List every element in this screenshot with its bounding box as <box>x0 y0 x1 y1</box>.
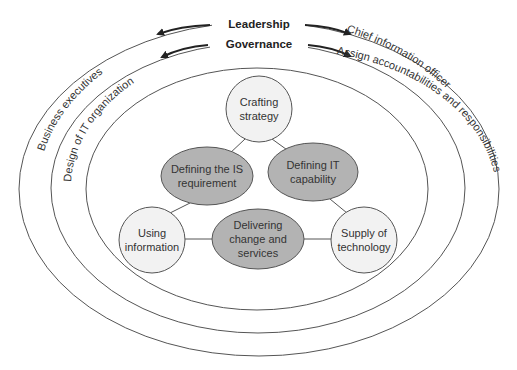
governance-left-arrow-icon <box>162 45 208 57</box>
leadership-left-arrow-icon <box>158 25 210 34</box>
svg-text:Defining the IS: Defining the IS <box>171 163 243 175</box>
node-using-information: Using information <box>119 207 185 273</box>
svg-text:Crafting: Crafting <box>240 96 279 108</box>
svg-text:Defining IT: Defining IT <box>286 159 339 171</box>
node-defining-it-capability: Defining IT capability <box>268 143 358 201</box>
svg-text:information: information <box>125 241 179 253</box>
svg-text:Delivering: Delivering <box>234 219 283 231</box>
svg-text:Supply of: Supply of <box>341 227 388 239</box>
svg-text:strategy: strategy <box>239 110 279 122</box>
svg-text:requirement: requirement <box>178 177 237 189</box>
svg-text:services: services <box>238 247 279 259</box>
is-strategy-diagram: Leadership Governance Business executive… <box>0 0 517 370</box>
node-crafting-strategy: Crafting strategy <box>226 76 292 142</box>
node-delivering-change-services: Delivering change and services <box>212 209 304 269</box>
link-it-supply <box>330 199 347 213</box>
svg-text:Using: Using <box>138 227 166 239</box>
node-supply-of-technology: Supply of technology <box>331 207 397 273</box>
svg-text:technology: technology <box>337 241 391 253</box>
leadership-label: Leadership <box>228 18 289 30</box>
governance-label: Governance <box>226 38 292 50</box>
svg-text:change and: change and <box>229 233 287 245</box>
svg-text:capability: capability <box>290 173 336 185</box>
link-is-using <box>170 203 190 213</box>
node-defining-is-requirement: Defining the IS requirement <box>161 147 253 205</box>
